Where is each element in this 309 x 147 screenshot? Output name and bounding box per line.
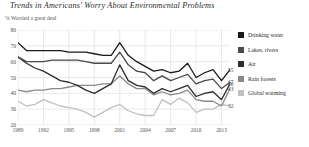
x-axis-tick-label: 2010: [191, 127, 202, 133]
y-axis-tick-label: 40: [10, 90, 16, 96]
x-axis-tick-label: 2004: [140, 127, 151, 133]
legend-swatch-icon: [238, 76, 244, 82]
legend-item[interactable]: Drinking water: [238, 28, 309, 43]
legend-swatch-icon: [238, 32, 244, 38]
legend-item[interactable]: Global warming: [238, 86, 309, 101]
legend-item[interactable]: Rain forests: [238, 72, 309, 87]
x-axis-tick-label: 1992: [38, 127, 49, 133]
y-axis-tick-label: 30: [10, 106, 16, 112]
legend-item-label: Air: [248, 61, 256, 67]
line-chart-svg: [18, 30, 230, 125]
chart-legend: Drinking waterLakes, riversAirRain fores…: [238, 28, 309, 101]
plot-area: [18, 30, 230, 125]
series-end-value: 55: [228, 67, 233, 73]
y-axis-tick-label: 50: [10, 75, 16, 81]
chart-container: Trends in Americans' Worry About Environ…: [0, 0, 309, 147]
chart-subtitle: % Worried a great deal: [5, 15, 56, 21]
x-axis-tick-label: 2007: [165, 127, 176, 133]
series-end-value: 43: [228, 86, 233, 92]
y-axis-tick-label: 70: [10, 43, 16, 49]
legend-swatch-icon: [238, 47, 244, 53]
y-axis-tick-label: 60: [10, 59, 16, 65]
legend-swatch-icon: [238, 90, 244, 96]
legend-item-label: Lakes, rivers: [248, 47, 278, 53]
series-line: [18, 52, 230, 88]
x-axis-tick-label: 2001: [114, 127, 125, 133]
y-axis-tick-label: 80: [10, 27, 16, 33]
legend-item[interactable]: Air: [238, 57, 309, 72]
x-axis-tick-label: 1998: [89, 127, 100, 133]
series-end-value: 32: [228, 103, 233, 109]
x-axis-tick-label: 1989: [13, 127, 24, 133]
x-axis-labels: 198919921995199820012004200720102013: [18, 127, 230, 139]
y-axis-labels: 80706050403020: [0, 26, 18, 129]
legend-swatch-icon: [238, 61, 244, 67]
x-axis-tick-label: 2013: [216, 127, 227, 133]
legend-item-label: Rain forests: [248, 76, 276, 82]
x-axis-tick-label: 1995: [63, 127, 74, 133]
legend-item-label: Drinking water: [248, 32, 283, 38]
chart-title: Trends in Americans' Worry About Environ…: [10, 1, 215, 10]
legend-item[interactable]: Lakes, rivers: [238, 43, 309, 58]
legend-item-label: Global warming: [248, 90, 286, 96]
series-line: [18, 98, 230, 117]
